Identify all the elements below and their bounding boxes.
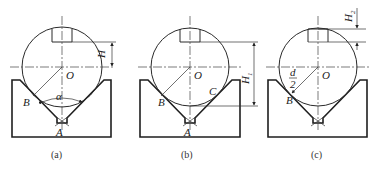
svg-text:2: 2 <box>349 10 357 14</box>
caption-a: (a) <box>51 149 62 161</box>
label-c: C <box>209 85 217 97</box>
radius-line-d2 <box>292 67 318 93</box>
panel-a: H α O B A (a) <box>10 16 116 161</box>
caption-b: (b) <box>181 149 193 161</box>
label-b: B <box>158 96 165 108</box>
label-o: O <box>194 69 202 81</box>
label-h: H <box>95 49 107 59</box>
v-block-measurement-diagram: H α O B A (a) H 1 O B C A (b) <box>0 0 374 169</box>
svg-text:1: 1 <box>246 73 254 77</box>
label-h1: H 1 <box>239 73 254 86</box>
radius-line-ob <box>161 67 190 96</box>
label-o: O <box>66 69 74 81</box>
label-2: 2 <box>290 78 296 90</box>
label-b: B <box>286 94 293 106</box>
label-b: B <box>23 96 30 108</box>
panel-b: H 1 O B C A (b) <box>138 16 258 161</box>
v-block-outline <box>268 80 367 137</box>
caption-c: (c) <box>311 149 322 161</box>
label-h2: H 2 <box>342 10 357 23</box>
label-d: d <box>290 66 296 78</box>
label-alpha: α <box>56 90 62 102</box>
panel-c: H 2 d 2 O B (c) <box>266 8 370 161</box>
label-a: A <box>183 126 191 138</box>
label-o: O <box>322 69 330 81</box>
label-a: A <box>55 126 63 138</box>
